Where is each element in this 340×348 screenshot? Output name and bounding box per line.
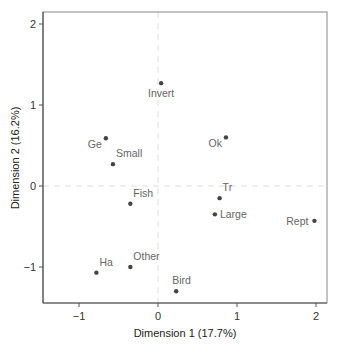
point-marker	[94, 270, 98, 274]
point-label: Other	[133, 250, 160, 262]
x-tick-label: 1	[234, 310, 240, 322]
y-axis-title: Dimension 2 (16.2%)	[9, 107, 21, 210]
point-marker	[174, 289, 178, 293]
plot-area	[43, 12, 327, 303]
point-label: Small	[116, 147, 142, 159]
x-tick-label: −1	[73, 310, 86, 322]
plot-background	[43, 12, 327, 303]
point-marker	[217, 196, 221, 200]
x-tick-label: 2	[313, 310, 319, 322]
point-label: Bird	[172, 274, 191, 286]
point-marker	[213, 212, 217, 216]
y-tick-label: 0	[30, 180, 36, 192]
point-marker	[159, 81, 163, 85]
point-marker	[128, 202, 132, 206]
point-label: Invert	[148, 87, 174, 99]
point-marker	[224, 135, 228, 139]
scatter-chart: −1012−1012 InvertGeSmallOkFishTrLargeRep…	[0, 0, 340, 348]
point-label: Ge	[88, 138, 102, 150]
point-label: Rept	[286, 215, 308, 227]
y-tick-label: −1	[23, 261, 36, 273]
point-marker	[128, 265, 132, 269]
x-axis-title: Dimension 1 (17.7%)	[134, 327, 237, 339]
point-marker	[312, 219, 316, 223]
point-label: Tr	[223, 181, 233, 193]
y-tick-label: 1	[30, 99, 36, 111]
point-label: Fish	[133, 187, 153, 199]
point-label: Large	[220, 208, 247, 220]
x-tick-label: 0	[155, 310, 161, 322]
y-tick-label: 2	[30, 18, 36, 30]
point-label: Ha	[99, 256, 113, 268]
point-marker	[111, 162, 115, 166]
point-label: Ok	[209, 137, 223, 149]
point-marker	[104, 136, 108, 140]
